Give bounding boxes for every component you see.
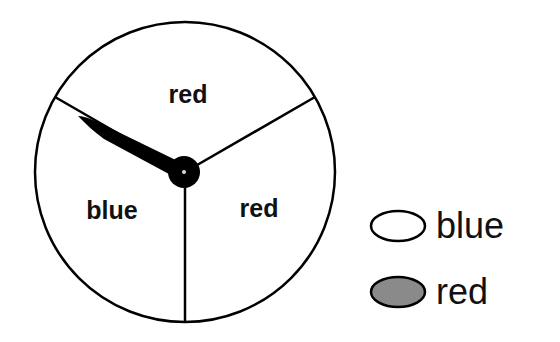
spinner-diagram — [0, 0, 360, 342]
legend-swatch-gray-ellipse — [368, 274, 428, 310]
legend-label-red: red — [436, 274, 488, 310]
sector-label-top: red — [169, 80, 208, 109]
legend-label-blue: blue — [436, 208, 504, 244]
hub-pin — [182, 170, 186, 174]
legend-item-red: red — [368, 274, 488, 310]
legend-item-blue: blue — [368, 208, 504, 244]
sector-label-bottom-right: red — [240, 194, 279, 223]
legend-swatch-white-ellipse — [368, 208, 428, 244]
sector-label-bottom-left: blue — [86, 196, 137, 225]
